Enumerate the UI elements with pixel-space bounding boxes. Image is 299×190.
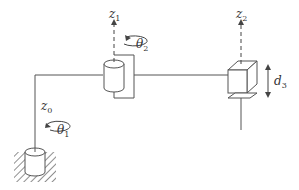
z2-label: z2 xyxy=(235,7,247,23)
d3-label: d3 xyxy=(274,74,287,90)
joint3-guide-plate xyxy=(228,93,257,98)
theta1-label: θ1 xyxy=(57,123,69,139)
z0-label: z0 xyxy=(40,99,52,115)
d3-translation-arrow-icon xyxy=(265,64,271,98)
joint1-cylinder xyxy=(25,148,45,176)
scara-robot-diagram: z1 θ2 z2 d3 z0 θ1 xyxy=(0,0,299,190)
z1-label: z1 xyxy=(108,7,120,23)
joint2-cylinder xyxy=(104,60,124,92)
joint3-prismatic-cube xyxy=(228,61,257,93)
